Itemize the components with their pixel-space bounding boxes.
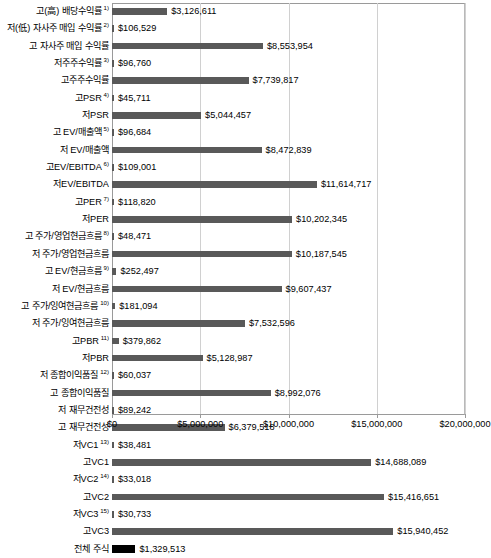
bar <box>112 355 203 362</box>
category-label: 고VC3 <box>83 523 112 540</box>
category-label: 고 종합이익품질 <box>50 385 112 402</box>
footnote-marker: 5) <box>102 125 109 132</box>
bar-row: 저 종합이익품질 12)$60,037 <box>0 367 481 384</box>
bar <box>112 77 249 84</box>
footnote-marker: 7) <box>102 195 109 202</box>
category-label: 고 자사주 매입 수익률 <box>29 38 112 55</box>
category-label: 저 주가/영업현금흐름 <box>32 246 112 263</box>
bar-row: 저EV/EBITDA$11,614,717 <box>0 176 481 193</box>
bar-row: 고VC2$15,416,651 <box>0 489 481 506</box>
footnote-marker: 14) <box>98 472 109 479</box>
bar <box>112 459 371 466</box>
category-label: 저PBR <box>82 350 112 367</box>
bar-value-label: $96,760 <box>114 55 151 72</box>
bar <box>112 147 262 154</box>
bar-row: 저VC2 14)$33,018 <box>0 471 481 488</box>
category-label: 고PBR 11) <box>72 333 112 350</box>
bar-row: 고PER 7)$118,820 <box>0 194 481 211</box>
category-label: 고VC2 <box>83 489 112 506</box>
bar-value-label: $15,940,452 <box>393 523 448 540</box>
bar-value-label: $379,862 <box>119 333 161 350</box>
bar-row: 고 주가/영업현금흐름 8)$48,471 <box>0 228 481 245</box>
footnote-marker: 2) <box>102 21 109 28</box>
bar-value-label: $11,614,717 <box>317 176 371 193</box>
category-label: 저 종합이익품질 12) <box>40 367 112 384</box>
bar-value-label: $10,202,345 <box>292 211 347 228</box>
category-label: 고(高) 배당수익률 1) <box>36 3 112 20</box>
bar-row: 고 자사주 매입 수익률$8,553,954 <box>0 38 481 55</box>
bar <box>112 545 135 552</box>
category-label: 고PER 7) <box>75 194 112 211</box>
bar-value-label: $1,329,513 <box>135 541 185 558</box>
category-label: 고 EV/매출액 5) <box>53 124 113 141</box>
axis-tick-label: $5,000,000 <box>177 417 223 431</box>
axis-tick-label: $0 <box>107 417 117 431</box>
bar-rows: 고(高) 배당수익률 1)$3,126,611저(低) 자사주 매입 수익률 2… <box>0 3 481 558</box>
bar-value-label: $8,472,839 <box>262 142 312 159</box>
bar-value-label: $7,532,596 <box>245 315 295 332</box>
bar-value-label: $9,607,437 <box>282 281 332 298</box>
bar-value-label: $109,001 <box>114 159 156 176</box>
bar <box>112 320 245 327</box>
bar-value-label: $15,416,651 <box>384 489 439 506</box>
category-label: 고 EV/현금흐름 9) <box>45 263 113 280</box>
bar <box>112 8 167 15</box>
bar-value-label: $48,471 <box>114 228 151 245</box>
bar-row: 고PBR 11)$379,862 <box>0 333 481 350</box>
category-label: 저PER <box>82 211 112 228</box>
category-label: 저VC3 15) <box>73 506 112 523</box>
category-label: 저 주가/잉여현금흐름 <box>32 315 112 332</box>
bar-value-label: $60,037 <box>114 367 151 384</box>
bar-value-label: $10,187,545 <box>292 246 347 263</box>
bar-row: 저VC3 15)$30,733 <box>0 506 481 523</box>
category-label: 저VC2 14) <box>73 471 112 488</box>
footnote-marker: 15) <box>98 507 109 514</box>
category-label: 저(低) 자사주 매입 수익률 2) <box>7 20 112 37</box>
footnote-marker: 9) <box>102 264 109 271</box>
bar-value-label: $5,044,457 <box>201 107 251 124</box>
bar-value-label: $181,094 <box>115 298 157 315</box>
footnote-marker: 13) <box>98 438 109 445</box>
category-label: 고 주가/잉여현금흐름 10) <box>21 298 112 315</box>
bar-row: 고 EV/현금흐름 9)$252,497 <box>0 263 481 280</box>
bar-row: 고(高) 배당수익률 1)$3,126,611 <box>0 3 481 20</box>
bar-row: 전체 주식$1,329,513 <box>0 541 481 558</box>
bar-row: 고 EV/매출액 5)$96,684 <box>0 124 481 141</box>
bar-value-label: $45,711 <box>114 90 151 107</box>
bar-row: 저(低) 자사주 매입 수익률 2)$106,529 <box>0 20 481 37</box>
bar-row: 고VC1$14,688,089 <box>0 454 481 471</box>
bar-row: 저주주수익률 3)$96,760 <box>0 55 481 72</box>
axis-tick-label: $20,000,000 <box>439 417 490 431</box>
bar-row: 저 EV/현금흐름$9,607,437 <box>0 281 481 298</box>
bar <box>112 390 271 397</box>
bar-row: 고 주가/잉여현금흐름 10)$181,094 <box>0 298 481 315</box>
bar-value-label: $14,688,089 <box>371 454 426 471</box>
bar-value-label: $7,739,817 <box>249 72 299 89</box>
category-label: 저주주수익률 3) <box>54 55 112 72</box>
footnote-marker: 4) <box>102 91 109 98</box>
bar <box>112 181 317 188</box>
bar-value-label: $5,128,987 <box>203 350 253 367</box>
bar-value-label: $96,684 <box>114 124 151 141</box>
bar-value-label: $252,497 <box>116 263 158 280</box>
footnote-marker: 1) <box>102 4 109 11</box>
bar-row: 저VC1 13)$38,481 <box>0 437 481 454</box>
bar <box>112 286 282 293</box>
bar-row: 고EV/EBITDA 6)$109,001 <box>0 159 481 176</box>
footnote-marker: 3) <box>102 56 109 63</box>
bar-row: 저 주가/영업현금흐름$10,187,545 <box>0 246 481 263</box>
bar-value-label: $30,733 <box>114 506 151 523</box>
category-label: 전체 주식 <box>74 541 112 558</box>
bar <box>112 528 393 535</box>
bar <box>112 494 384 501</box>
category-label: 고PSR 4) <box>75 90 112 107</box>
bar <box>112 43 263 50</box>
bar-row: 고주주수익률$7,739,817 <box>0 72 481 89</box>
bar-row: 저PER$10,202,345 <box>0 211 481 228</box>
bar <box>112 112 201 119</box>
bar-row: 저PBR$5,128,987 <box>0 350 481 367</box>
bar-row: 저 EV/매출액$8,472,839 <box>0 142 481 159</box>
bar-value-label: $8,992,076 <box>271 385 321 402</box>
footnote-marker: 11) <box>99 333 109 340</box>
